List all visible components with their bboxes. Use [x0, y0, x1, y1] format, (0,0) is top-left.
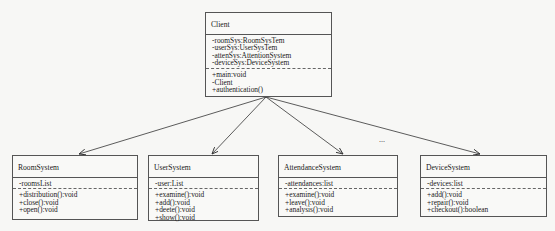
operation: +checkout():boolean — [427, 206, 542, 214]
class-attributes: -roomSys:RoomSysTem -userSys:UserSysTem … — [206, 35, 331, 69]
class-name: Client — [206, 13, 331, 35]
attribute: -roomsList — [19, 180, 133, 188]
operation: +open():void — [19, 206, 133, 214]
arrow-client-devicesystem — [266, 97, 480, 154]
attribute: -user:List — [155, 180, 254, 188]
attribute: -deviceSys:DeviceSystem — [212, 59, 327, 67]
attribute: -devices:list — [427, 180, 542, 188]
class-operations: +examine():void +add():void +deete():voi… — [149, 189, 258, 223]
class-operations: +distribution():void +close():void +open… — [13, 189, 137, 216]
operation: +analysis():void — [285, 206, 393, 214]
class-usersystem: UserSystem -user:List +examine():void +a… — [148, 155, 259, 221]
class-name: AttendanceSystem — [279, 156, 397, 178]
more-classes-ellipsis: ... — [379, 135, 385, 144]
class-name: UserSystem — [149, 156, 258, 178]
class-devicesystem: DeviceSystem -devices:list +add():void +… — [420, 155, 547, 217]
class-attributes: -attendances:list — [279, 178, 397, 190]
class-name: RoomSystem — [13, 156, 137, 178]
attribute: -attendances:list — [285, 180, 393, 188]
class-attributes: -roomsList — [13, 178, 137, 190]
class-name: DeviceSystem — [421, 156, 546, 178]
class-attendancesystem: AttendanceSystem -attendances:list +exam… — [278, 155, 398, 217]
class-attributes: -devices:list — [421, 178, 546, 190]
class-operations: +examine():void +leave():void +analysis(… — [279, 189, 397, 216]
arrow-client-attendancesystem — [266, 97, 343, 154]
class-operations: +add():void +repair():void +checkout():b… — [421, 189, 546, 216]
operation: +show():void — [155, 214, 254, 222]
class-client: Client -roomSys:RoomSysTem -userSys:User… — [205, 12, 332, 97]
arrow-client-roomsystem — [79, 97, 266, 154]
operation: +authentication() — [212, 86, 327, 94]
class-roomsystem: RoomSystem -roomsList +distribution():vo… — [12, 155, 138, 220]
class-operations: +main:void -Client +authentication() — [206, 69, 331, 96]
class-attributes: -user:List — [149, 178, 258, 190]
